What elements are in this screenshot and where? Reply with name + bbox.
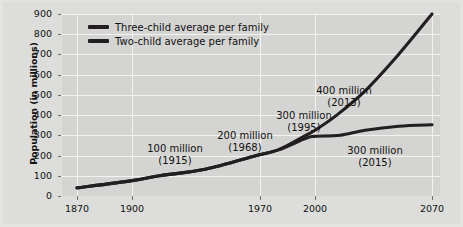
annotation-year: (2015) [315, 157, 435, 169]
x-tick-mark [77, 196, 78, 200]
y-tick-mark [58, 196, 61, 197]
y-tick-mark [58, 75, 61, 76]
x-tick-mark [432, 196, 433, 200]
annotation-value: 400 million [284, 85, 404, 97]
y-tick-label: 400 [10, 109, 52, 120]
gridline-horizontal [62, 14, 440, 15]
x-tick-mark [260, 196, 261, 200]
gridline-horizontal [62, 75, 440, 76]
annotation-year: (1968) [185, 142, 305, 154]
annotation-year: (2013) [284, 97, 404, 109]
gridline-horizontal [62, 176, 440, 177]
x-tick-mark [132, 196, 133, 200]
legend-label-three-child: Three-child average per family [115, 22, 269, 33]
gridline-horizontal [62, 54, 440, 55]
y-tick-label: 0 [10, 190, 52, 201]
annotation-year: (1995) [244, 122, 364, 134]
chart-annotation: 200 million(1968) [185, 130, 305, 153]
chart-annotation: 300 million(1995) [244, 110, 364, 133]
x-tick-label: 2070 [402, 203, 462, 214]
x-tick-label: 1870 [47, 203, 107, 214]
y-tick-label: 200 [10, 150, 52, 161]
x-tick-mark [315, 196, 316, 200]
y-tick-mark [58, 156, 61, 157]
y-tick-mark [58, 95, 61, 96]
legend-swatch-two-child [88, 39, 109, 43]
y-tick-mark [58, 14, 61, 15]
y-tick-label: 900 [10, 8, 52, 19]
y-tick-label: 500 [10, 89, 52, 100]
legend-item-three-child: Three-child average per family [88, 20, 269, 34]
gridline-vertical [432, 14, 433, 196]
y-tick-mark [58, 135, 61, 136]
y-tick-mark [58, 34, 61, 35]
y-tick-mark [58, 115, 61, 116]
chart-annotation: 400 million(2013) [284, 85, 404, 108]
chart-legend: Three-child average per family Two-child… [88, 20, 269, 48]
annotation-year: (1915) [115, 155, 235, 167]
y-tick-label: 800 [10, 28, 52, 39]
legend-swatch-three-child [88, 25, 109, 29]
annotation-value: 300 million [315, 145, 435, 157]
legend-item-two-child: Two-child average per family [88, 34, 269, 48]
population-projection-chart-figure: Population (in millions) 010020030040050… [0, 0, 463, 227]
y-tick-label: 100 [10, 170, 52, 181]
y-tick-mark [58, 54, 61, 55]
annotation-value: 300 million [244, 110, 364, 122]
chart-annotation: 300 million(2015) [315, 145, 435, 168]
y-tick-mark [58, 176, 61, 177]
gridline-vertical [77, 14, 78, 196]
y-tick-label: 700 [10, 48, 52, 59]
y-tick-label: 600 [10, 69, 52, 80]
x-tick-label: 1970 [230, 203, 290, 214]
y-tick-label: 300 [10, 129, 52, 140]
legend-label-two-child: Two-child average per family [115, 36, 259, 47]
x-tick-label: 2000 [285, 203, 345, 214]
x-tick-label: 1900 [102, 203, 162, 214]
